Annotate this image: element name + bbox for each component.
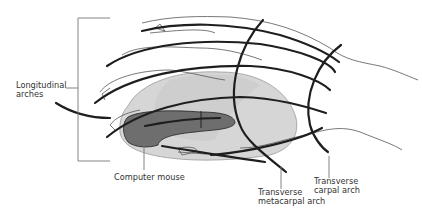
longitudinal-bracket xyxy=(66,18,110,161)
longitudinal-label: Longitudinal arches xyxy=(16,80,69,99)
carpal-label: Transverse carpal arch xyxy=(313,176,361,195)
hand-arches-diagram: Longitudinal arches Computer mouse Trans… xyxy=(0,0,422,212)
mouse-label: Computer mouse xyxy=(114,172,185,182)
